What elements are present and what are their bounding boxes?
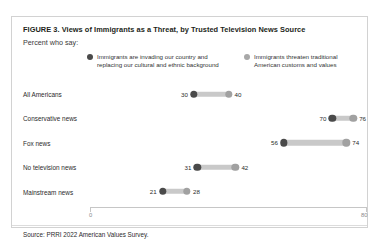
dumbbell-dot-invading xyxy=(329,115,336,122)
legend-dot-dark-icon xyxy=(87,54,93,60)
x-axis-line xyxy=(90,207,367,212)
chart-row: No television news3142 xyxy=(12,156,369,178)
chart-row: Conservative news7076 xyxy=(12,107,369,129)
page-title: FIGURE 3. Views of Immigrants as a Threa… xyxy=(23,25,305,34)
dumbbell-group: 3142 xyxy=(12,162,369,173)
dumbbell-value-invading: 31 xyxy=(184,164,191,171)
x-axis-tick-max: 80 xyxy=(361,212,367,218)
dumbbell-value-threaten: 28 xyxy=(193,188,200,195)
chart-row: Mainstream news2128 xyxy=(12,181,369,203)
dumbbell-group: 5674 xyxy=(12,137,369,148)
chart-row: All Americans3040 xyxy=(12,83,369,105)
legend-item-invading: Immigrants are invading our country and … xyxy=(87,53,232,68)
chart-plot-area: All Americans3040Conservative news7076Fo… xyxy=(12,83,369,205)
dumbbell-dot-invading xyxy=(190,90,197,97)
legend-dot-light-icon xyxy=(244,54,250,60)
legend-label-invading-line2: replacing our cultural and ethnic backgr… xyxy=(97,61,219,68)
legend-item-threaten: Immigrants threaten traditional American… xyxy=(244,53,369,68)
legend-label-threaten: Immigrants threaten traditional American… xyxy=(254,53,338,68)
dumbbell-value-invading: 70 xyxy=(319,115,326,122)
x-axis: 0 80 xyxy=(12,207,369,223)
dumbbell-connector xyxy=(284,140,346,145)
legend-label-invading: Immigrants are invading our country and … xyxy=(97,53,219,68)
chart-row: Fox news5674 xyxy=(12,132,369,154)
dumbbell-connector xyxy=(194,91,229,96)
dumbbell-dot-threaten xyxy=(225,90,232,97)
dumbbell-dot-invading xyxy=(159,188,166,195)
dumbbell-value-threaten: 76 xyxy=(359,115,366,122)
dumbbell-value-invading: 30 xyxy=(181,91,188,98)
dumbbell-value-threaten: 40 xyxy=(235,91,242,98)
dumbbell-connector xyxy=(197,164,235,169)
dumbbell-dot-threaten xyxy=(232,163,239,170)
x-axis-tick-min: 0 xyxy=(89,212,92,218)
dumbbell-value-invading: 21 xyxy=(150,188,157,195)
dumbbell-dot-threaten xyxy=(349,115,356,122)
dumbbell-group: 3040 xyxy=(12,89,369,100)
dumbbell-group: 7076 xyxy=(12,113,369,124)
dumbbell-value-invading: 56 xyxy=(271,139,278,146)
dumbbell-group: 2128 xyxy=(12,186,369,197)
figure-subtitle: Percent who say: xyxy=(23,38,78,47)
dumbbell-dot-threaten xyxy=(183,188,190,195)
dumbbell-value-threaten: 42 xyxy=(241,164,248,171)
figure-card: FIGURE 3. Views of Immigrants as a Threa… xyxy=(11,16,368,228)
dumbbell-dot-threaten xyxy=(343,139,350,146)
dumbbell-value-threaten: 74 xyxy=(352,139,359,146)
source-divider xyxy=(12,225,367,226)
dumbbell-dot-invading xyxy=(280,139,287,146)
legend-label-threaten-line1: Immigrants threaten traditional xyxy=(254,53,338,60)
source-note: Source: PRRI 2022 American Values Survey… xyxy=(23,231,148,238)
chart-legend: Immigrants are invading our country and … xyxy=(12,53,367,75)
legend-label-invading-line1: Immigrants are invading our country and xyxy=(97,53,208,60)
dumbbell-dot-invading xyxy=(194,163,201,170)
legend-label-threaten-line2: American customs and values xyxy=(254,61,337,68)
